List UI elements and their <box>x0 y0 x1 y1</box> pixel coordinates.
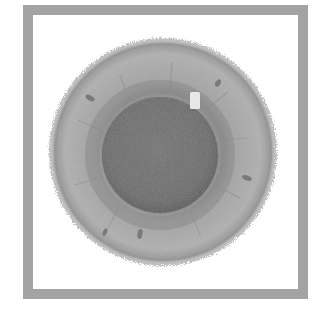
pupil <box>102 97 218 213</box>
eye-illustration <box>0 0 326 312</box>
catchlight <box>190 92 200 109</box>
